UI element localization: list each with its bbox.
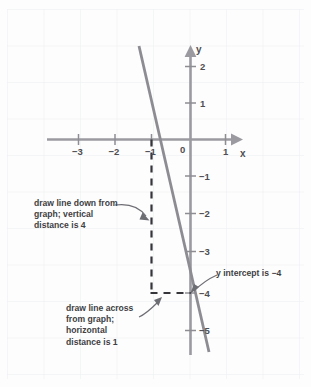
x-tick-label-neg2: −2 <box>109 146 120 157</box>
horizontal-annotation-leader <box>139 297 162 317</box>
y-tick-label-1: 1 <box>200 98 205 109</box>
y-tick-label-neg2: −2 <box>199 208 210 219</box>
x-axis <box>47 134 243 146</box>
y-axis <box>185 45 197 355</box>
y-tick-label-neg1: −1 <box>199 171 210 182</box>
y-tick-label-neg5: −5 <box>199 325 210 336</box>
vertical-distance-annotation: draw line down from graph; vertical dist… <box>34 198 120 232</box>
y-intercept-annotation: y intercept is −4 <box>216 268 308 279</box>
y-axis-label: y <box>196 44 202 55</box>
figure-container: −3 −2 −1 1 0 2 1 −1 −2 −3 −4 −5 x y draw… <box>0 0 311 387</box>
graph-canvas <box>0 0 311 387</box>
y-tick-label-2: 2 <box>200 61 205 72</box>
vertical-annotation-leader <box>115 205 150 221</box>
y-tick-label-neg3: −3 <box>199 246 210 257</box>
plotted-line <box>139 46 209 352</box>
y-tick-label-neg4: −4 <box>199 288 210 299</box>
x-tick-label-neg3: −3 <box>72 146 83 157</box>
x-tick-label-1: 1 <box>223 146 228 157</box>
x-axis-label: x <box>240 148 246 159</box>
x-tick-label-neg1: −1 <box>145 146 156 157</box>
horizontal-distance-annotation: draw line across from graph; horizontal … <box>66 303 138 348</box>
origin-label: 0 <box>180 144 185 155</box>
